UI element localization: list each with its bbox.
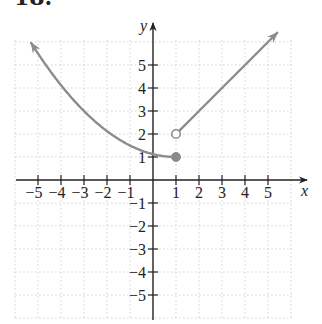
x-tick-label: −5 — [25, 184, 42, 201]
y-tick-label: 3 — [138, 103, 146, 120]
closed-endpoint-dot — [172, 153, 181, 162]
y-tick-label: 2 — [138, 126, 146, 143]
piecewise-function-graph: xy −5−4−3−2−112345−5−4−3−2−112345 — [0, 0, 322, 324]
x-tick-label: −4 — [48, 184, 65, 201]
y-tick-label: −1 — [129, 195, 146, 212]
y-tick-label: −4 — [129, 264, 146, 281]
x-tick-label: 5 — [264, 184, 272, 201]
curves — [31, 33, 277, 162]
y-tick-label: −5 — [129, 287, 146, 304]
axes: xy — [16, 17, 308, 320]
x-tick-label: 4 — [241, 184, 249, 201]
y-tick-label: 5 — [138, 57, 146, 74]
x-axis-label: x — [300, 182, 308, 199]
x-tick-label: 3 — [218, 184, 226, 201]
parabola-curve — [31, 43, 176, 157]
y-axis-label: y — [138, 17, 148, 35]
open-endpoint-circle — [172, 130, 181, 139]
linear-ray — [179, 33, 277, 131]
x-tick-label: −2 — [94, 184, 111, 201]
x-tick-label: −3 — [71, 184, 88, 201]
y-tick-label: 4 — [138, 80, 146, 97]
x-tick-label: 1 — [172, 184, 180, 201]
x-tick-label: 2 — [195, 184, 203, 201]
y-tick-label: −2 — [129, 218, 146, 235]
y-tick-label: −3 — [129, 241, 146, 258]
